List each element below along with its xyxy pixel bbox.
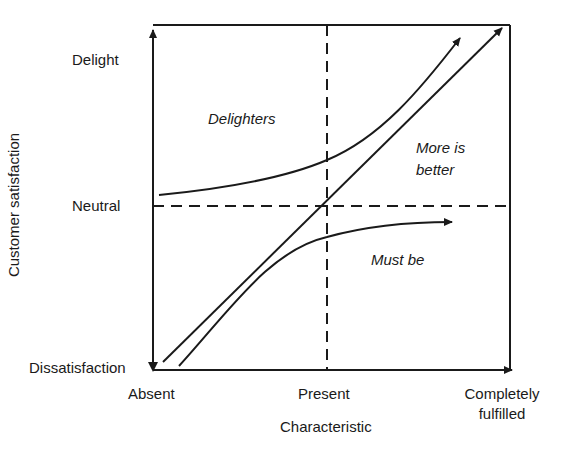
x-tick-completely-fulfilled: Completely fulfilled [460,385,544,422]
more-is-better-label-line1: More is [416,137,465,159]
x-tick-completely-fulfilled-line1: Completely [460,385,544,402]
y-tick-delight: Delight [72,51,119,68]
more-is-better-label: More is better [416,137,465,181]
y-axis-label: Customer satisfaction [5,133,22,277]
x-axis-label: Characteristic [280,418,372,435]
y-tick-neutral: Neutral [72,197,120,214]
must-be-curve [179,222,452,366]
delighters-label: Delighters [208,110,276,127]
delighters-curve [159,38,460,195]
more-is-better-curve [163,28,502,362]
more-is-better-label-line2: better [416,159,465,181]
x-tick-completely-fulfilled-line2: fulfilled [460,405,544,422]
x-tick-present: Present [298,385,350,402]
x-tick-absent: Absent [128,385,175,402]
y-tick-dissatisfaction: Dissatisfaction [29,359,126,376]
must-be-label: Must be [371,251,424,268]
